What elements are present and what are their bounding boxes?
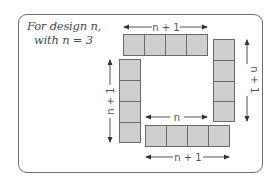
top-row-label: n + 1 [152, 22, 179, 33]
dimension-arrows: n + 1 n + 1 n + 1 n n + 1 [0, 0, 273, 183]
right-column-label: n + 1 [249, 66, 260, 93]
left-column-label: n + 1 [105, 87, 116, 114]
bottom-row-label: n + 1 [174, 152, 201, 163]
bottom-inner-label: n [174, 112, 180, 123]
